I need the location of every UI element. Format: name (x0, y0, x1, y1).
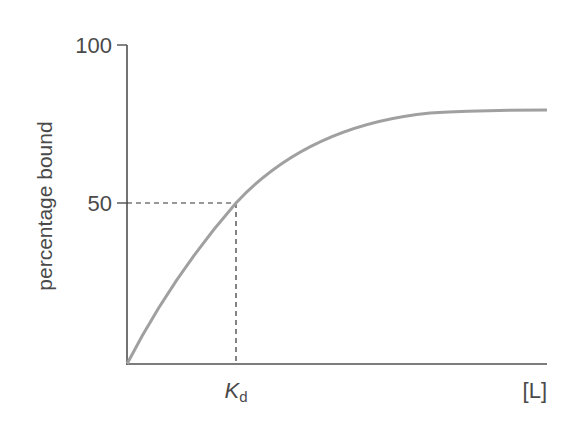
binding-curve (127, 110, 547, 364)
y-tick-label-100: 100 (75, 33, 112, 58)
y-axis-label: percentage bound (33, 121, 56, 290)
kd-label-main: K (224, 378, 240, 403)
kd-label: Kd (224, 378, 247, 405)
x-axis-label: [L] (523, 378, 547, 403)
binding-curve-chart: 100 50 percentage bound Kd [L] (0, 0, 580, 434)
kd-label-sub: d (239, 388, 247, 405)
y-tick-label-50: 50 (88, 191, 112, 216)
